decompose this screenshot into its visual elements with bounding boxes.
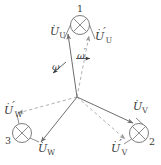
W-label-dot: ·	[41, 139, 44, 148]
W-prime-label-dot: ·	[7, 100, 10, 109]
V-prime-phasor-label: ·U′V	[111, 138, 127, 156]
W-label-subscript: W	[47, 148, 55, 157]
W-prime-phasor-label: ·U′W	[4, 100, 23, 118]
V-phasor-line	[77, 97, 133, 123]
V-prime-label-dot: ·	[114, 138, 117, 147]
W-prime-phasor-line	[18, 97, 77, 113]
U-prime-phasor-line	[77, 36, 89, 97]
V-prime-phasor-line	[77, 97, 125, 139]
lamp-2-number-label: 2	[149, 137, 155, 147]
V-label-subscript: V	[142, 106, 147, 115]
lamp-1-number-label: 1	[77, 4, 83, 14]
lamp-3-number-label: 3	[5, 136, 11, 146]
V-phasor-label: ·UV	[133, 101, 148, 115]
solid-phasor-star	[41, 34, 133, 142]
phasor-diagram-figure: ·UU ·U′U ·UV ·U′V ·UW ·U′W 1 2 3 ω ω′	[0, 0, 161, 165]
lamp-2-group	[124, 118, 149, 144]
dashed-phasor-star	[18, 36, 125, 139]
U-label-dot: ·	[53, 22, 56, 31]
omega-symbol: ω	[52, 61, 60, 72]
U-label-subscript: U	[59, 31, 65, 40]
lamp-3-group	[13, 115, 40, 143]
U-phasor-label: ·UU	[50, 26, 66, 40]
V-label-dot: ·	[136, 97, 139, 106]
omega-prime-mark: ′	[84, 46, 86, 57]
W-phasor-label: ·UW	[38, 143, 55, 157]
omega-prime-label: ω′	[77, 47, 86, 61]
V-prime-label-subscript: V	[122, 148, 127, 157]
W-phasor-line	[41, 97, 77, 142]
omega-label: ω	[52, 62, 60, 72]
U-phasor-line	[68, 34, 77, 97]
diagram-canvas	[0, 0, 161, 165]
U-prime-label-dot: ·	[98, 26, 101, 35]
U-prime-label-subscript: U	[106, 36, 112, 45]
U-prime-phasor-label: ·U′U	[95, 26, 112, 44]
W-prime-label-subscript: W	[15, 110, 23, 119]
